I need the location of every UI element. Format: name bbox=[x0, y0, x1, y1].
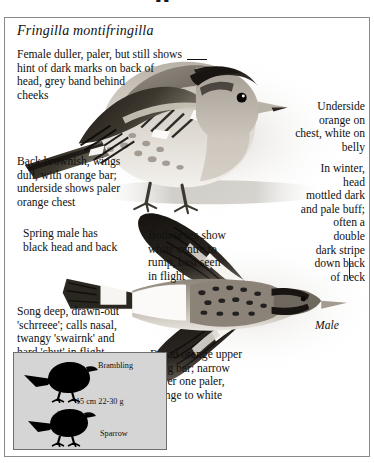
caption-both-sexes: Both sexes show white centre to rump, be… bbox=[148, 229, 268, 283]
caption-underside: Underside orange on chest, white on bell… bbox=[255, 100, 365, 154]
sparrow-silhouette-icon bbox=[26, 405, 102, 447]
caption-back: Back brownish, wings dull, with orange b… bbox=[17, 155, 177, 209]
clipped-heading-fragment: g bbox=[155, 0, 170, 2]
scientific-name: Fringilla montifringilla bbox=[17, 23, 154, 39]
label-male: Male bbox=[315, 319, 339, 332]
leader-line-female bbox=[187, 59, 207, 60]
size-comparison-box: Brambling 15 cm 22-30 g Sparrow bbox=[13, 352, 167, 450]
comparison-label-brambling: Brambling bbox=[98, 361, 133, 370]
comparison-label-sparrow: Sparrow bbox=[100, 429, 128, 438]
comparison-measurements: 15 cm 22-30 g bbox=[76, 397, 124, 406]
caption-wing-bar: Broad orange upper wing bar; narrow lowe… bbox=[150, 348, 290, 402]
caption-female: Female duller, paler, but still shows hi… bbox=[17, 48, 217, 102]
field-guide-plate: Fringilla montifringilla Female duller, … bbox=[4, 17, 370, 457]
leader-line-neck bbox=[349, 258, 350, 279]
